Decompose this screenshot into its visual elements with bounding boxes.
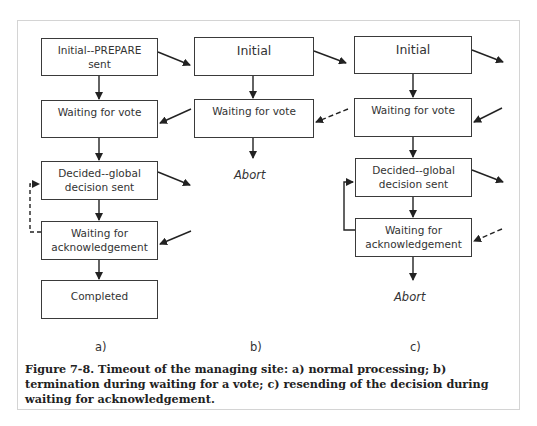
state-label: Waiting for vote [212, 104, 296, 118]
state-c-waiting-for-vote: Waiting for vote [354, 98, 472, 137]
figure-caption: Figure 7-8. Timeout of the managing site… [25, 362, 505, 407]
state-label: Initial [396, 43, 431, 57]
state-a-completed: Completed [41, 280, 158, 319]
panel-label-c: c) [410, 340, 421, 354]
state-label: Initial [237, 44, 272, 58]
state-label: decision sent [372, 177, 455, 191]
figure-frame [17, 20, 520, 410]
state-a-decided-global-decision-sent: Decided--globaldecision sent [41, 161, 158, 200]
state-label: Waiting for [51, 226, 148, 240]
state-a-waiting-for-vote: Waiting for vote [41, 100, 158, 138]
state-b-waiting-for-vote: Waiting for vote [194, 99, 314, 138]
panel-label-b: b) [250, 340, 262, 354]
state-label: acknowledgement [365, 237, 462, 251]
state-c-decided-global-decision-sent: Decided--globaldecision sent [355, 158, 472, 197]
state-c-abort: Abort [394, 290, 425, 304]
state-label: Completed [71, 289, 128, 303]
state-c-waiting-for-acknowledgement: Waiting foracknowledgement [355, 218, 472, 257]
state-label: Initial--PREPARE [58, 43, 142, 57]
state-label: Decided--global [372, 163, 455, 177]
state-a-initial-prepare-sent: Initial--PREPAREsent [41, 38, 158, 76]
state-label: Waiting for vote [58, 105, 142, 119]
state-label: Waiting for vote [371, 103, 455, 117]
state-label: Waiting for [365, 223, 462, 237]
state-c-initial: Initial [354, 36, 472, 74]
state-label: decision sent [58, 180, 141, 194]
state-a-waiting-for-acknowledgement: Waiting foracknowledgement [41, 221, 158, 260]
state-b-initial: Initial [194, 37, 314, 76]
state-label: acknowledgement [51, 240, 148, 254]
state-b-abort: Abort [234, 168, 265, 182]
panel-label-a: a) [95, 340, 107, 354]
state-label: Decided--global [58, 166, 141, 180]
state-label: sent [58, 57, 142, 71]
